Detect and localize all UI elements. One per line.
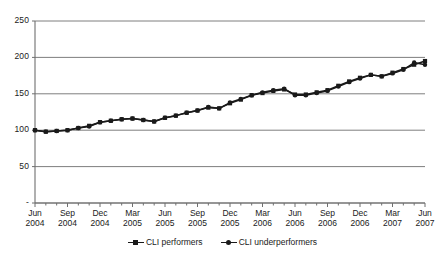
x-axis-tick-year: 2007 — [408, 219, 442, 229]
y-axis-tick-label: 200 — [2, 52, 29, 61]
series-marker — [109, 119, 113, 123]
series-marker — [379, 74, 383, 78]
series-marker — [412, 60, 416, 64]
series-marker — [271, 88, 275, 92]
series-marker — [390, 71, 394, 75]
x-axis-tick-year: 2005 — [116, 219, 150, 229]
x-axis-tick-year: 2004 — [51, 219, 85, 229]
x-axis-tick-year: 2007 — [376, 219, 410, 229]
x-axis-tick-label: Jun2006 — [278, 209, 312, 228]
x-axis-tick-label: Dec2004 — [83, 209, 117, 228]
x-axis-tick-label: Jun2004 — [18, 209, 52, 228]
y-axis-tick-label: - — [2, 198, 29, 207]
legend-item[interactable]: CLI underperformers — [221, 237, 317, 247]
x-axis-tick-label: Mar2007 — [376, 209, 410, 228]
chart-legend: CLI performersCLI underperformers — [0, 233, 445, 251]
series-marker — [44, 129, 48, 133]
legend-item[interactable]: CLI performers — [128, 237, 203, 247]
legend-label: CLI underperformers — [239, 237, 317, 247]
series-marker — [228, 100, 232, 104]
y-axis-tick-label: 150 — [2, 89, 29, 98]
series-marker — [163, 116, 167, 120]
legend-marker — [133, 240, 138, 245]
series-marker — [239, 97, 243, 101]
series-marker — [369, 73, 373, 77]
x-axis-tick-year: 2006 — [278, 219, 312, 229]
series-marker — [260, 90, 264, 94]
series-marker — [206, 105, 210, 109]
series-marker — [282, 87, 286, 91]
series-marker — [184, 111, 188, 115]
x-axis-tick-label: Sep2004 — [51, 209, 85, 228]
x-axis-tick-year: 2006 — [246, 219, 280, 229]
series-marker — [217, 106, 221, 110]
series-line-1 — [35, 63, 425, 132]
x-axis-tick-label: Jun2007 — [408, 209, 442, 228]
y-axis-tick-label: 250 — [2, 16, 29, 25]
legend-label: CLI performers — [146, 237, 203, 247]
legend-marker-icon — [221, 238, 237, 246]
series-marker — [54, 129, 58, 133]
series-marker — [293, 93, 297, 97]
series-marker — [87, 124, 91, 128]
legend-marker-icon — [128, 238, 144, 246]
series-marker — [336, 84, 340, 88]
series-marker — [314, 91, 318, 95]
series-marker — [195, 108, 199, 112]
x-axis-tick-year: 2006 — [311, 219, 345, 229]
series-line-0 — [35, 61, 425, 132]
series-marker — [76, 126, 80, 130]
x-axis-tick-year: 2006 — [343, 219, 377, 229]
x-axis-tick-year: 2004 — [83, 219, 117, 229]
x-axis-tick-year: 2005 — [148, 219, 182, 229]
x-axis-tick-label: Sep2005 — [181, 209, 215, 228]
x-axis-tick-label: Jun2005 — [148, 209, 182, 228]
x-axis-tick-label: Sep2006 — [311, 209, 345, 228]
series-marker — [423, 62, 427, 66]
x-axis-tick-year: 2004 — [18, 219, 52, 229]
series-marker — [347, 80, 351, 84]
series-marker — [249, 93, 253, 97]
x-axis-tick-label: Dec2005 — [213, 209, 247, 228]
x-axis-tick-label: Mar2006 — [246, 209, 280, 228]
legend-marker — [226, 240, 231, 245]
series-marker — [325, 89, 329, 93]
series-marker — [130, 116, 134, 120]
series-marker — [174, 113, 178, 117]
chart-container: -50100150200250 Jun2004Sep2004Dec2004Mar… — [0, 0, 445, 255]
series-marker — [119, 117, 123, 121]
y-axis-tick-label: 50 — [2, 162, 29, 171]
x-axis-tick-label: Dec2006 — [343, 209, 377, 228]
x-axis-tick-year: 2005 — [181, 219, 215, 229]
series-marker — [141, 118, 145, 122]
x-axis-tick-year: 2005 — [213, 219, 247, 229]
x-axis-tick-label: Mar2005 — [116, 209, 150, 228]
series-marker — [33, 128, 37, 132]
series-marker — [98, 120, 102, 124]
series-marker — [358, 76, 362, 80]
series-marker — [401, 68, 405, 72]
series-marker — [65, 128, 69, 132]
series-marker — [152, 119, 156, 123]
series-marker — [304, 93, 308, 97]
y-axis-tick-label: 100 — [2, 125, 29, 134]
